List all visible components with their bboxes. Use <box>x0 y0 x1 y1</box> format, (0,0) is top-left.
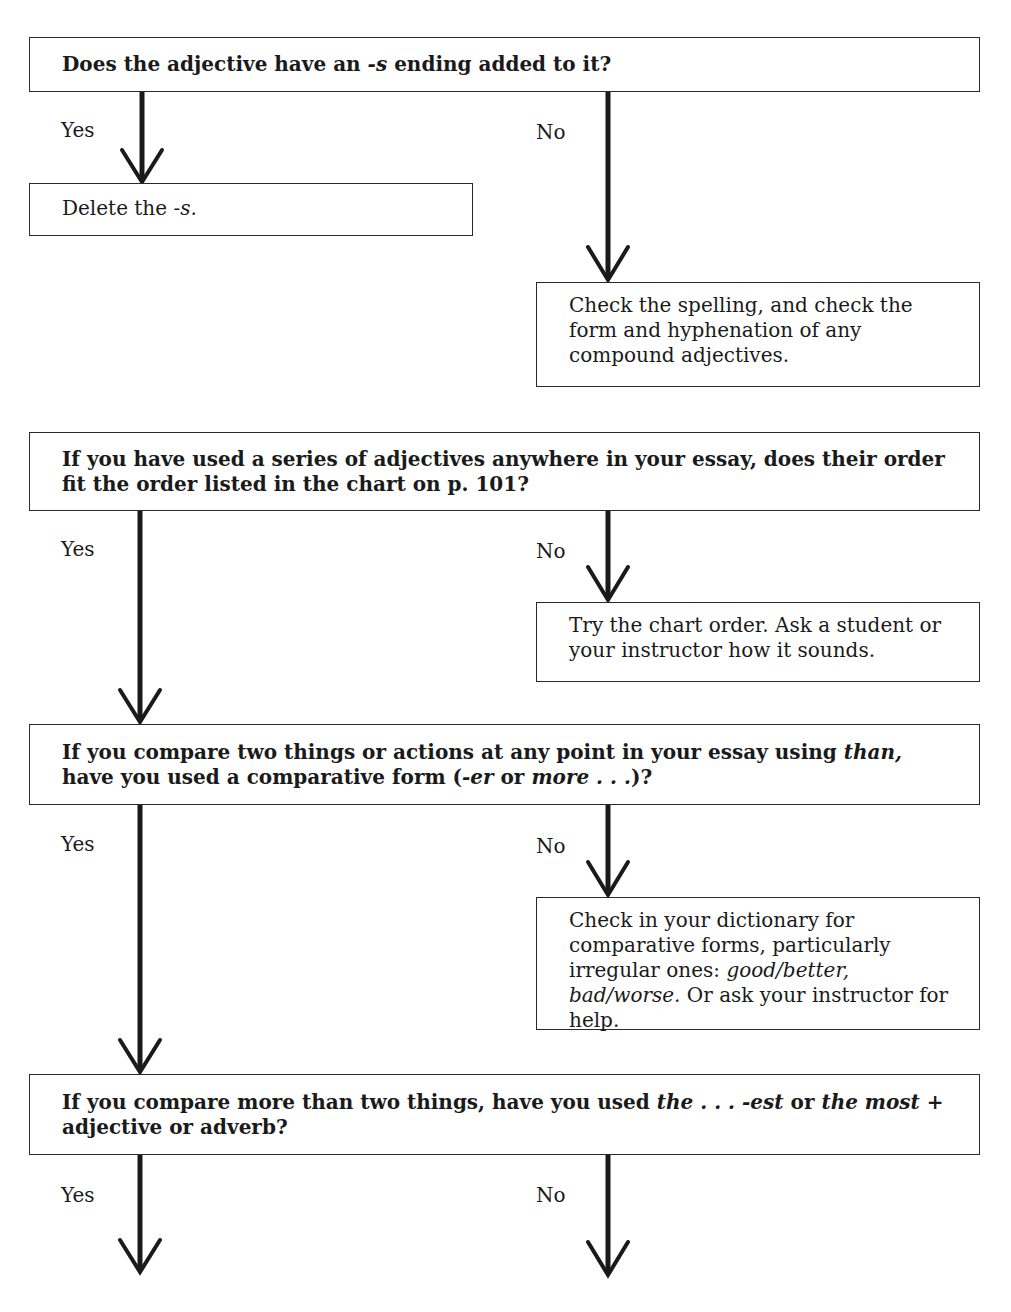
question-1-text: Does the adjective have an -s ending add… <box>62 52 611 77</box>
question-3-yes-label: Yes <box>61 832 95 856</box>
yes-action-text: Delete the -s. <box>62 196 197 220</box>
question-2-box: If you have used a series of adjectives … <box>29 432 980 511</box>
question-1-no-action: Check the spelling, and check the form a… <box>536 282 980 387</box>
question-1-yes-action: Delete the -s. <box>29 183 473 236</box>
question-3-no-action: Check in your dictionary for comparative… <box>536 897 980 1030</box>
question-4-box: If you compare more than two things, hav… <box>29 1074 980 1155</box>
question-1-box: Does the adjective have an -s ending add… <box>29 37 980 92</box>
question-4-text: If you compare more than two things, hav… <box>62 1090 979 1140</box>
question-1-yes-label: Yes <box>61 118 95 142</box>
question-2-no-action: Try the chart order. Ask a student or yo… <box>536 602 980 682</box>
question-3-text: If you compare two things or actions at … <box>62 740 979 790</box>
question-3-no-label: No <box>536 834 566 858</box>
question-1-no-label: No <box>536 120 566 144</box>
no-action-text: Check the spelling, and check the form a… <box>569 293 913 367</box>
question-3-box: If you compare two things or actions at … <box>29 724 980 805</box>
no-action-text: Check in your dictionary for comparative… <box>569 908 948 1032</box>
no-action-text: Try the chart order. Ask a student or yo… <box>569 613 941 662</box>
question-4-yes-label: Yes <box>61 1183 95 1207</box>
question-2-yes-label: Yes <box>61 537 95 561</box>
question-4-no-label: No <box>536 1183 566 1207</box>
question-2-text: If you have used a series of adjectives … <box>62 447 979 497</box>
question-2-no-label: No <box>536 539 566 563</box>
